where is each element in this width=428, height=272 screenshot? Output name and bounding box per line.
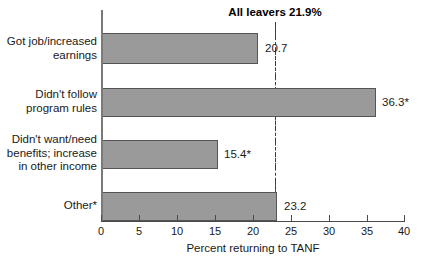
category-label-line: benefits; increase — [0, 147, 97, 161]
x-tick-label-10: 10 — [162, 225, 192, 238]
x-tick-label-5: 5 — [124, 225, 154, 238]
x-tick-label-20: 20 — [238, 225, 268, 238]
x-tick-30 — [329, 215, 330, 221]
bar-chart: All leavers 21.9% Got job/increased earn… — [0, 0, 428, 272]
x-tick-label-40: 40 — [389, 225, 419, 238]
x-tick-15 — [215, 215, 216, 221]
x-tick-5 — [139, 215, 140, 221]
bar-value-no-benefits: 15.4* — [224, 148, 251, 160]
category-label-program-rules: Didn't follow program rules — [0, 88, 97, 115]
bar-value-other: 23.2 — [284, 200, 306, 212]
x-axis-line — [101, 221, 405, 222]
category-label-line: Other* — [0, 199, 97, 213]
category-label-got-job: Got job/increased earnings — [0, 35, 97, 62]
x-tick-label-25: 25 — [276, 225, 306, 238]
x-tick-0 — [101, 215, 102, 221]
bar-other — [101, 192, 277, 221]
bar-program-rules — [101, 88, 376, 117]
bar-no-benefits — [101, 140, 218, 169]
all-leavers-annotation-label: All leavers 21.9% — [228, 6, 321, 18]
category-label-line: Didn't follow — [0, 88, 97, 102]
category-label-line: program rules — [0, 102, 97, 116]
x-tick-35 — [367, 215, 368, 221]
x-tick-label-15: 15 — [200, 225, 230, 238]
x-tick-10 — [177, 215, 178, 221]
x-axis-title: Percent returning to TANF — [101, 242, 405, 254]
x-tick-40 — [404, 215, 405, 221]
bar-value-got-job: 20.7 — [265, 42, 287, 54]
x-tick-20 — [253, 215, 254, 221]
category-label-line: in other income — [0, 160, 97, 174]
x-tick-label-0: 0 — [86, 225, 116, 238]
category-label-line: earnings — [0, 49, 97, 63]
x-tick-label-30: 30 — [314, 225, 344, 238]
x-tick-25 — [291, 215, 292, 221]
bar-value-program-rules: 36.3* — [382, 96, 409, 108]
bar-got-job — [101, 33, 258, 64]
category-label-line: Didn't want/need — [0, 133, 97, 147]
category-label-other: Other* — [0, 199, 97, 213]
category-label-no-benefits: Didn't want/need benefits; increase in o… — [0, 133, 97, 174]
category-label-line: Got job/increased — [0, 35, 97, 49]
x-tick-label-35: 35 — [352, 225, 382, 238]
y-axis-line — [101, 10, 103, 222]
